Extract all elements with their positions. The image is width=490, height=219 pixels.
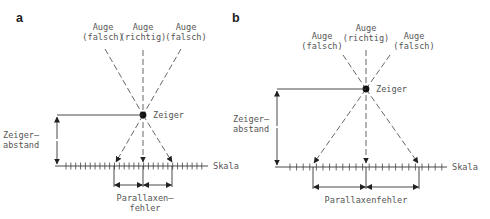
eye-right-state-b: (falsch) xyxy=(393,41,434,51)
distance-label-line2-b: abstand xyxy=(233,124,269,134)
distance-label-line1-b: Zeiger– xyxy=(233,114,270,124)
parallax-diagram: a Auge (falsch) Auge (richtig) Auge (fal… xyxy=(0,0,490,219)
sightline-right-lower-a xyxy=(143,115,172,162)
eye-center-state-a: (richtig) xyxy=(120,32,167,42)
error-label-line1-a: Parallaxen– xyxy=(117,193,175,203)
eye-right-state-a: (falsch) xyxy=(165,32,206,42)
pointer-label-a: Zeiger xyxy=(153,110,184,120)
sightline-left-lower-b xyxy=(314,89,366,163)
eye-center-label-b: Auge xyxy=(356,23,377,33)
scale-label-a: Skala xyxy=(213,161,239,171)
distance-label-line2-a: abstand xyxy=(3,140,39,150)
panel-b: b Auge (falsch) Auge (richtig) Auge (fal… xyxy=(232,11,478,205)
eye-center-label-a: Auge xyxy=(133,22,154,32)
sightline-right-upper-a xyxy=(143,49,181,115)
error-label-b: Parallaxenfehler xyxy=(325,195,408,205)
sightline-left-upper-a xyxy=(105,49,143,115)
error-label-line2-a: fehler xyxy=(129,203,160,213)
eye-center-state-b: (richtig) xyxy=(343,33,390,43)
scale-label-b: Skala xyxy=(452,162,478,172)
panel-label-a: a xyxy=(16,11,24,25)
panel-label-b: b xyxy=(232,11,240,25)
sightline-left-lower-a xyxy=(116,115,143,162)
eye-left-label-a: Auge xyxy=(93,22,114,32)
eye-left-state-b: (falsch) xyxy=(301,41,342,51)
eye-left-label-b: Auge xyxy=(312,31,333,41)
eye-left-state-a: (falsch) xyxy=(82,32,123,42)
sightline-left-upper-b xyxy=(343,55,366,89)
eye-right-label-a: Auge xyxy=(176,22,197,32)
pointer-label-b: Zeiger xyxy=(376,84,407,94)
sightline-right-lower-b xyxy=(366,89,418,163)
distance-label-line1-a: Zeiger– xyxy=(3,130,40,140)
panel-a: a Auge (falsch) Auge (richtig) Auge (fal… xyxy=(3,11,239,213)
eye-right-label-b: Auge xyxy=(404,31,425,41)
